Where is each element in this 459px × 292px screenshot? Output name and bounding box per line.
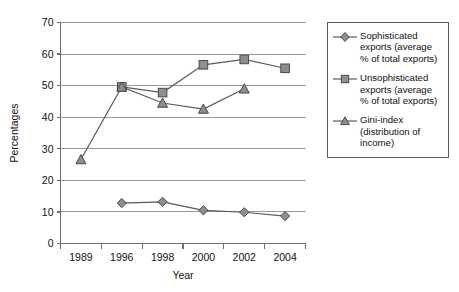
legend-label: Gini-index (distribution of income): [360, 114, 420, 148]
data-point-square: [281, 64, 290, 73]
legend-label: Sophisticated exports (average % of tota…: [360, 30, 437, 64]
y-tick-label: 30: [42, 143, 54, 155]
y-tick-label: 10: [42, 206, 54, 218]
data-point-square: [158, 88, 167, 97]
legend-item-unsophisticated-exports: Unsophisticated exports (average % of to…: [333, 72, 442, 106]
y-tick-label: 40: [42, 111, 54, 123]
data-point-diamond: [158, 197, 167, 206]
y-tick-label: 0: [48, 237, 54, 249]
square-marker-icon: [333, 73, 357, 85]
diamond-marker-icon: [333, 31, 357, 43]
x-axis-title: Year: [172, 269, 194, 281]
x-tick-label: 1998: [151, 251, 175, 263]
x-tick-label: 1996: [110, 251, 134, 263]
y-tick-label: 70: [42, 16, 54, 28]
chart-legend: Sophisticated exports (average % of tota…: [327, 22, 449, 158]
data-point-diamond: [117, 198, 126, 207]
legend-item-gini-index: Gini-index (distribution of income): [333, 114, 442, 148]
x-tick-label: 2004: [273, 251, 297, 263]
data-point-diamond: [280, 211, 289, 220]
plot-area: 010203040506070198919961998200020022004Y…: [0, 0, 316, 292]
data-point-triangle: [76, 155, 86, 164]
y-tick-label: 50: [42, 79, 54, 91]
data-point-diamond: [240, 208, 249, 217]
data-point-diamond: [199, 206, 208, 215]
x-tick-label: 1989: [69, 251, 93, 263]
data-point-triangle: [158, 98, 168, 107]
y-axis-title: Percentages: [8, 104, 20, 163]
x-tick-label: 2002: [233, 251, 257, 263]
legend-item-sophisticated-exports: Sophisticated exports (average % of tota…: [333, 30, 442, 64]
legend-label: Unsophisticated exports (average % of to…: [360, 72, 437, 106]
data-point-square: [199, 61, 208, 70]
x-tick-label: 2000: [192, 251, 216, 263]
triangle-marker-icon: [333, 115, 357, 127]
y-tick-label: 60: [42, 48, 54, 60]
y-tick-label: 20: [42, 174, 54, 186]
data-point-square: [240, 55, 249, 64]
chart-figure: 010203040506070198919961998200020022004Y…: [0, 0, 459, 292]
line-chart: 010203040506070198919961998200020022004Y…: [0, 0, 316, 292]
